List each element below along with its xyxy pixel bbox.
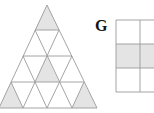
triangle-figure <box>0 0 154 113</box>
shaded-cell-center <box>35 56 59 82</box>
figure-label: G <box>95 17 107 35</box>
shaded-cell-top <box>35 5 59 30</box>
shaded-cell-bottom-left <box>0 82 23 108</box>
shaded-cell-bottom-right <box>72 82 97 108</box>
grid-shaded-row <box>116 44 154 68</box>
